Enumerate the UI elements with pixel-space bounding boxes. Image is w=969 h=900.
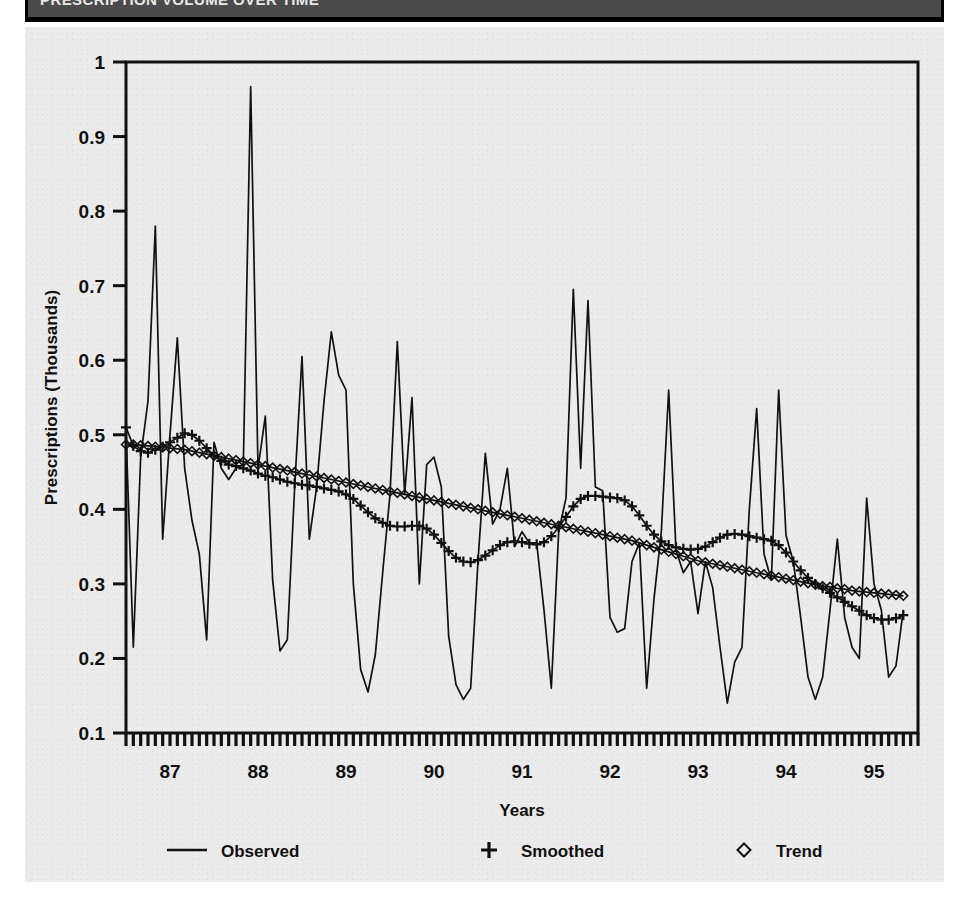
y-axis-tick-label: 0.8 (79, 201, 105, 222)
legend-item-observed: Observed (167, 842, 299, 861)
y-axis-tick-label: 0.4 (79, 499, 106, 520)
x-axis-tick-label: 88 (247, 761, 268, 782)
series-markers-smoothed (121, 422, 908, 624)
series-line-observed (126, 87, 903, 704)
header-title: PRESCRIPTION VOLUME OVER TIME (40, 0, 319, 8)
x-axis-tick-label: 89 (335, 761, 356, 782)
chart-figure: 0.10.20.30.40.50.60.70.80.91Prescription… (25, 27, 944, 882)
y-axis-tick-label: 0.5 (79, 425, 106, 446)
y-axis-tick-label: 0.1 (79, 723, 106, 744)
y-axis-tick-label: 0.2 (79, 648, 105, 669)
x-axis-tick-label: 91 (511, 761, 533, 782)
y-axis-title: Prescriptions (Thousands) (42, 290, 61, 505)
legend-label: Observed (221, 842, 299, 861)
x-axis-tick-label: 90 (423, 761, 444, 782)
x-axis-tick-label: 93 (687, 761, 708, 782)
chart-plot: 0.10.20.30.40.50.60.70.80.91Prescription… (25, 27, 944, 882)
legend-plus-icon (481, 842, 497, 858)
x-axis-tick-label: 92 (599, 761, 620, 782)
legend-diamond-icon (738, 844, 751, 857)
x-axis-title: Years (499, 801, 544, 820)
legend-item-trend: Trend (738, 842, 823, 861)
series-markers-trend (122, 440, 908, 600)
header-band: PRESCRIPTION VOLUME OVER TIME (25, 0, 944, 22)
series-line-smoothed (126, 427, 903, 619)
y-axis-tick-label: 1 (94, 52, 105, 73)
y-axis-tick-label: 0.6 (79, 350, 105, 371)
legend-label: Trend (776, 842, 822, 861)
legend-item-smoothed: Smoothed (481, 842, 604, 861)
x-axis-tick-label: 94 (775, 761, 797, 782)
y-axis-tick-label: 0.7 (79, 276, 105, 297)
x-axis-tick-label: 95 (863, 761, 885, 782)
page-root: PRESCRIPTION VOLUME OVER TIME 0.10.20.30… (0, 0, 969, 900)
y-axis-tick-label: 0.9 (79, 127, 105, 148)
y-axis-tick-label: 0.3 (79, 574, 105, 595)
x-axis-tick-label: 87 (159, 761, 180, 782)
legend-label: Smoothed (521, 842, 604, 861)
